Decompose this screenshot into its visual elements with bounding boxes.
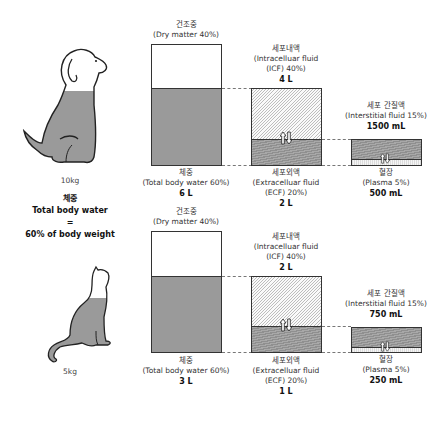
- dog-total-water-label: 체중 (Total body water 60%) 6 L: [126, 168, 246, 199]
- cat-ecf-connector-bottom: [322, 352, 351, 353]
- dog-plasma-label: 혈장 (Plasma 5%) 500 mL: [336, 168, 436, 199]
- cat-ecf-connector-top: [322, 326, 351, 327]
- cat-dry-matter-label: 건조중 (Dry matter 40%): [131, 207, 241, 227]
- cat-weight-label: 5kg: [45, 367, 95, 376]
- dog-silhouette-icon: [22, 45, 112, 170]
- cat-interstitial-label: 세포 간질액 (Interstitial fluid 15%) 750 mL: [336, 289, 436, 320]
- dog-connector-bottom: [222, 165, 252, 166]
- cat-water-line: [151, 276, 222, 277]
- cat-plasma-label: 혈장 (Plasma 5%) 250 mL: [336, 355, 436, 386]
- up-down-arrows-icon: [380, 153, 390, 164]
- dog-water-line: [151, 88, 222, 89]
- cat-icf-label: 세포내액 (Intracelluar fluid (ICF) 40%) 2 L: [236, 232, 336, 273]
- caption-line2: =: [10, 217, 130, 229]
- up-down-arrows-icon: [280, 318, 292, 332]
- total-body-water-caption: 체중 Total body water = 60% of body weight: [10, 193, 130, 241]
- caption-line1: Total body water: [10, 205, 130, 217]
- up-down-arrows-icon: [280, 131, 292, 145]
- cat-connector-bottom: [222, 352, 252, 353]
- dog-weight-label: 10kg: [40, 176, 100, 185]
- caption-korean: 체중: [10, 193, 130, 205]
- dog-total-water-fill: [152, 88, 221, 165]
- dog-connector-top: [222, 88, 252, 89]
- cat-ecf-label: 세포외액 (Extracelluar fluid (ECF) 20%) 1 L: [236, 356, 336, 397]
- dog-icf-label: 세포내액 (Intracelluar fluid (ICF) 40%) 4 L: [236, 44, 336, 85]
- cat-connector-top: [222, 276, 252, 277]
- dog-ecf-connector-top: [322, 139, 351, 140]
- dog-ecf-connector-bottom: [322, 165, 351, 166]
- dog-interstitial-label: 세포 간질액 (Interstitial fluid 15%) 1500 mL: [336, 101, 436, 132]
- cat-silhouette-icon: [40, 265, 115, 365]
- cat-water-compartment-box: [251, 276, 322, 353]
- up-down-arrows-icon: [380, 341, 390, 352]
- dog-ecf-label: 세포외액 (Extracelluar fluid (ECF) 20%) 2 L: [236, 168, 336, 209]
- dog-water-compartment-box: [251, 88, 322, 166]
- cat-total-water-fill: [152, 276, 221, 352]
- cat-total-water-label: 체중 (Total body water 60%) 3 L: [126, 356, 246, 387]
- dog-dry-matter-label: 건조중 (Dry matter 40%): [131, 20, 241, 40]
- caption-line3: 60% of body weight: [10, 229, 130, 241]
